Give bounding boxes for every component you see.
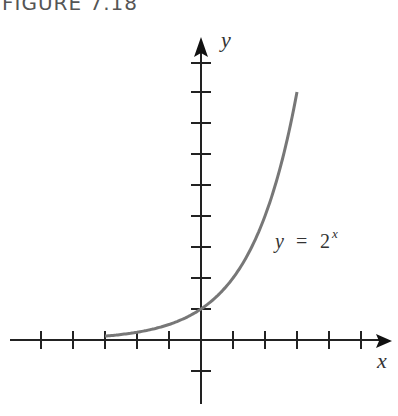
curve-equation-label: y = 2 x (273, 226, 338, 253)
svg-text:x: x (331, 226, 338, 241)
svg-text:=: = (296, 230, 307, 252)
svg-text:2: 2 (320, 230, 330, 252)
svg-text:y: y (273, 230, 284, 253)
y-axis-label: y (219, 27, 231, 52)
exponential-graph: y x y = 2 x (0, 0, 398, 416)
x-axis-label: x (376, 348, 387, 373)
